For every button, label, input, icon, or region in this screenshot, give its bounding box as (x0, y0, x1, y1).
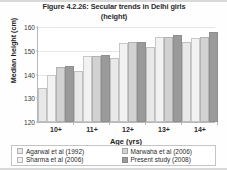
bar (110, 58, 119, 122)
chart-title-line-2: (height) (18, 12, 210, 22)
x-tick-label: 13+ (158, 126, 170, 133)
bar (137, 42, 146, 122)
legend-swatch-icon (17, 148, 23, 154)
legend-item[interactable]: Present study (2008) (114, 156, 214, 163)
bar (92, 56, 101, 123)
x-tick-mark (73, 122, 74, 125)
y-tick-label: 130 (24, 95, 35, 102)
y-tick-label: 150 (24, 47, 35, 54)
x-tick-mark (217, 122, 218, 125)
bar-groups: 10+11+12+13+14+ (38, 27, 215, 122)
chart-legend: Agarwal et al (1992)Marwaha et al (2006)… (11, 145, 216, 166)
bar (65, 66, 74, 122)
bar-group: 14+ (182, 27, 218, 122)
legend-item[interactable]: Marwaha et al (2006) (114, 148, 214, 155)
legend-label: Marwaha et al (2006) (131, 148, 192, 155)
bar (200, 37, 209, 122)
bar (47, 75, 56, 122)
legend-swatch-icon (122, 157, 128, 163)
bar (38, 88, 47, 122)
figure-container: Figure 4.2.26: Secular trends in Delhi g… (0, 0, 227, 170)
legend-label: Sharma et al (2006) (26, 156, 83, 163)
bar (128, 42, 137, 122)
y-axis-label: Median height (cm) (9, 12, 18, 90)
legend-swatch-icon (122, 148, 128, 154)
bar (83, 56, 92, 122)
y-tick-label: 140 (24, 71, 35, 78)
bar (173, 35, 182, 122)
legend-label: Agarwal et al (1992) (26, 148, 84, 155)
bar-group: 13+ (146, 27, 182, 122)
bar (209, 32, 218, 122)
bar (56, 67, 65, 122)
y-tick-label: 120 (24, 119, 35, 126)
legend-label: Present study (2008) (131, 156, 191, 163)
bar (74, 71, 83, 122)
bar-group: 10+ (38, 27, 74, 122)
x-tick-label: 10+ (50, 126, 62, 133)
x-tick-mark (145, 122, 146, 125)
bar-group: 11+ (74, 27, 110, 122)
bar (164, 37, 173, 123)
x-tick-mark (181, 122, 182, 125)
legend-item[interactable]: Sharma et al (2006) (14, 156, 114, 163)
legend-item[interactable]: Agarwal et al (1992) (14, 148, 114, 155)
chart-title: Figure 4.2.26: Secular trends in Delhi g… (18, 2, 210, 21)
legend-swatch-icon (17, 157, 23, 163)
bar (155, 37, 164, 122)
x-tick-label: 12+ (122, 126, 134, 133)
x-tick-label: 14+ (194, 126, 206, 133)
bar (191, 38, 200, 122)
bar (119, 43, 128, 122)
chart-title-line-1: Figure 4.2.26: Secular trends in Delhi g… (18, 2, 210, 12)
bar (146, 47, 155, 122)
figure-bottom-border (0, 168, 227, 170)
bar-group: 12+ (110, 27, 146, 122)
plot-area: 120130140150160 10+11+12+13+14+ (37, 27, 215, 123)
bar (182, 42, 191, 122)
x-tick-label: 11+ (86, 126, 98, 133)
y-tick-label: 160 (24, 24, 35, 31)
x-tick-mark (109, 122, 110, 125)
bar (101, 55, 110, 122)
